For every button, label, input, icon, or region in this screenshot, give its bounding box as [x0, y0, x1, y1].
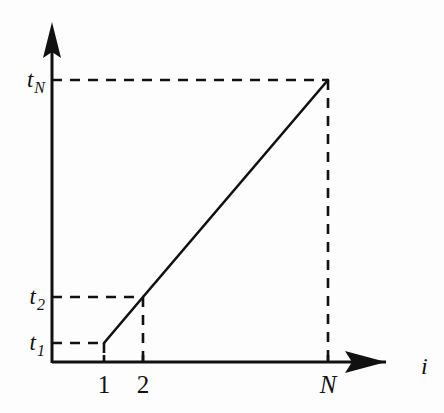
y-tick-label-t2: t2	[8, 285, 44, 308]
x-tick-label-2: 2	[123, 372, 163, 397]
y-tick-label-tN-base: t	[27, 67, 33, 92]
y-tick-label-t2-subscript: 2	[37, 296, 45, 313]
y-tick-label-t2-base: t	[30, 284, 36, 309]
data-series-line	[104, 80, 328, 343]
x-tick-label-1: 1	[84, 372, 124, 397]
x-tick-label-N: N	[308, 372, 348, 397]
figure-container: tN t2 t1 1 2 N i	[0, 0, 444, 413]
y-tick-label-tN-subscript: N	[34, 79, 45, 96]
y-tick-label-tN: tN	[8, 68, 44, 91]
y-tick-label-t1: t1	[8, 331, 44, 354]
plot-canvas	[0, 0, 444, 413]
x-axis-name-label: i	[421, 354, 428, 378]
y-tick-label-t1-base: t	[30, 330, 36, 355]
y-tick-label-t1-subscript: 1	[37, 342, 45, 359]
